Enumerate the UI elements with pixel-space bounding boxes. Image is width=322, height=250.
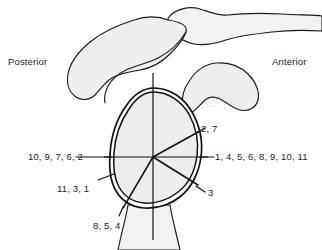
- figure-canvas: [0, 0, 322, 250]
- label-posterior: Posterior: [8, 57, 47, 67]
- anatomical-figure: Posterior Anterior 2, 7 10, 9, 7, 6, 2 1…: [0, 0, 322, 250]
- leader-line-3: [196, 186, 205, 192]
- label-sector-superior-anterior: 2, 7: [201, 124, 217, 134]
- label-sector-anterior-inferior: 3: [208, 188, 213, 198]
- label-sector-posterior: 10, 9, 7, 6, 2: [28, 152, 83, 162]
- label-sector-posterior-inferior: 11, 3, 1: [57, 184, 89, 194]
- humeral-shaft-shape-icon: [118, 205, 180, 250]
- coracoid-shape-icon: [182, 63, 258, 113]
- clavicle-shape-icon: [168, 8, 322, 45]
- acromion-shape-icon: [67, 17, 186, 99]
- leader-line-8-5-4: [119, 207, 123, 216]
- label-sector-inferior: 8, 5, 4: [93, 221, 120, 231]
- label-sector-anterior: 1, 4, 5, 6, 8, 9, 10, 11: [215, 152, 308, 162]
- label-anterior: Anterior: [272, 57, 306, 67]
